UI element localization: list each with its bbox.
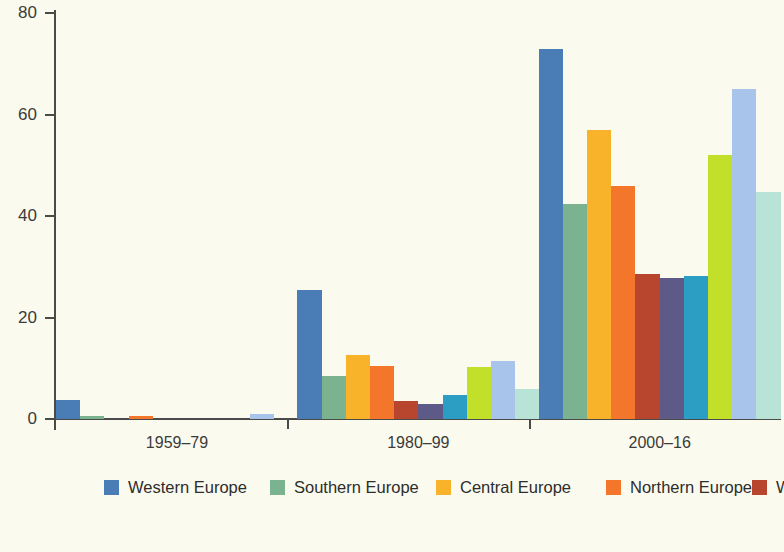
bar bbox=[250, 414, 274, 419]
legend-swatch-icon bbox=[752, 480, 767, 495]
x-axis-tick-mark bbox=[287, 420, 289, 429]
bar-chart-figure: 020406080 1959–791980–992000–16 Western … bbox=[0, 0, 784, 552]
bar bbox=[346, 355, 370, 419]
bar bbox=[297, 290, 321, 419]
bar bbox=[370, 366, 394, 419]
bar bbox=[129, 416, 153, 419]
bar bbox=[418, 404, 442, 419]
x-axis-tick-label: 2000–16 bbox=[629, 434, 691, 452]
legend-label: Western Europe bbox=[128, 479, 247, 496]
y-axis-tick-label: 40 bbox=[18, 207, 37, 224]
legend-label: Western Balkans bbox=[776, 479, 784, 496]
legend-item[interactable]: Central Europe bbox=[436, 479, 606, 496]
bar bbox=[635, 274, 659, 419]
bar bbox=[515, 389, 539, 419]
bar bbox=[80, 416, 104, 419]
bar bbox=[611, 186, 635, 419]
bar bbox=[443, 395, 467, 419]
y-axis-tick-label: 80 bbox=[18, 4, 37, 21]
x-axis-tick-mark bbox=[529, 420, 531, 429]
bar bbox=[660, 278, 684, 419]
bar bbox=[756, 192, 780, 419]
legend-item[interactable]: Northern Europe bbox=[606, 479, 752, 496]
y-axis-tick-label: 20 bbox=[18, 309, 37, 326]
legend-swatch-icon bbox=[436, 480, 451, 495]
bar bbox=[684, 276, 708, 419]
bar bbox=[322, 376, 346, 419]
bar bbox=[708, 155, 732, 419]
bar bbox=[491, 361, 515, 419]
y-axis-tick-mark bbox=[45, 12, 54, 14]
legend-label: Northern Europe bbox=[630, 479, 752, 496]
legend-item[interactable]: Western Balkans bbox=[752, 479, 784, 496]
y-axis-tick-label: 60 bbox=[18, 106, 37, 123]
legend-swatch-icon bbox=[270, 480, 285, 495]
legend-item[interactable]: Western Europe bbox=[104, 479, 270, 496]
y-axis-tick-mark bbox=[45, 215, 54, 217]
legend-label: Central Europe bbox=[460, 479, 571, 496]
bar bbox=[563, 204, 587, 419]
y-axis-tick-mark bbox=[45, 114, 54, 116]
bars-layer bbox=[56, 13, 780, 419]
y-axis-tick-mark bbox=[45, 317, 54, 319]
bar bbox=[539, 49, 563, 419]
bar bbox=[56, 400, 80, 419]
legend-label: Southern Europe bbox=[294, 479, 419, 496]
y-axis-tick-label: 0 bbox=[28, 410, 37, 427]
chart-legend: Western EuropeSouthern EuropeCentral Eur… bbox=[104, 474, 764, 501]
y-axis-tick-mark bbox=[45, 418, 54, 420]
bar bbox=[467, 367, 491, 419]
x-axis-tick-label: 1959–79 bbox=[146, 434, 208, 452]
legend-item[interactable]: Southern Europe bbox=[270, 479, 436, 496]
bar bbox=[732, 89, 756, 419]
legend-swatch-icon bbox=[104, 480, 119, 495]
x-axis-tick-label: 1980–99 bbox=[387, 434, 449, 452]
bar bbox=[394, 401, 418, 419]
bar bbox=[587, 130, 611, 419]
legend-swatch-icon bbox=[606, 480, 621, 495]
